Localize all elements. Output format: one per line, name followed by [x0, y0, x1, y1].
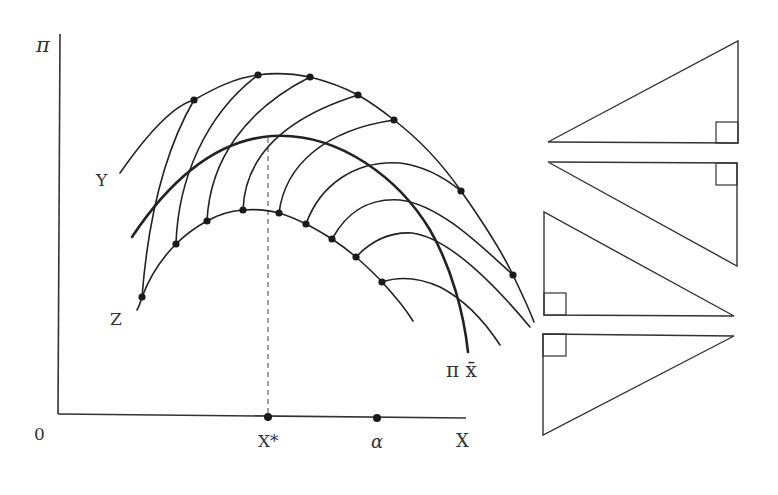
x-star-label: X*: [258, 431, 279, 451]
alpha-label: α: [371, 431, 383, 452]
curve-pi-xbar-label: π x̄: [446, 358, 478, 382]
y-dot: [509, 271, 516, 278]
right-angle-marker: [716, 163, 737, 185]
z-dot: [328, 235, 335, 242]
y-dot: [354, 91, 361, 98]
z-dot: [203, 217, 210, 224]
z-dot: [138, 293, 145, 300]
curve-pi-xbar: [132, 136, 468, 352]
y-dot: [190, 96, 197, 103]
right-angle-marker: [544, 293, 566, 315]
y-axis-label: π: [35, 33, 51, 57]
connector-curve-4: [243, 95, 358, 210]
curve-z-label: Z: [110, 309, 122, 329]
connector-curve-6: [306, 163, 461, 224]
z-dot: [378, 278, 385, 285]
triangle-1: [548, 41, 738, 143]
y-axis: [58, 34, 60, 414]
connector-curve-1: [142, 100, 194, 297]
y-dot: [390, 116, 397, 123]
z-dot: [352, 253, 359, 260]
connector-curve-2: [176, 75, 258, 244]
axes: [58, 34, 466, 418]
y-dot: [457, 187, 464, 194]
x-axis-label: X: [456, 430, 469, 451]
z-dot: [172, 240, 179, 247]
curve-y-label: Y: [95, 170, 108, 190]
triangle-4: [543, 334, 734, 435]
curve-z: [137, 210, 413, 321]
z-dot: [239, 206, 246, 213]
y-dot: [306, 73, 313, 80]
triangle-3: [544, 212, 734, 316]
connector-curve-9: [382, 279, 500, 345]
origin-label: 0: [34, 424, 45, 444]
x-axis: [58, 414, 466, 418]
triangles: [543, 41, 738, 435]
triangle-2: [548, 162, 737, 266]
alpha-point: [373, 414, 381, 422]
right-angle-marker: [543, 334, 566, 356]
connector-curve-7: [332, 200, 513, 275]
z-dot: [302, 220, 309, 227]
connector-curves: [142, 75, 530, 345]
z-dot: [275, 209, 282, 216]
curve-y-dots: [190, 71, 516, 278]
y-dot: [254, 71, 261, 78]
diagram-canvas: π 0 X X* α Y Z π x̄: [0, 0, 778, 495]
connector-curve-5: [279, 120, 394, 213]
x-star-point: [264, 413, 272, 421]
curve-z-dots: [138, 206, 385, 300]
right-angle-marker: [716, 122, 738, 143]
